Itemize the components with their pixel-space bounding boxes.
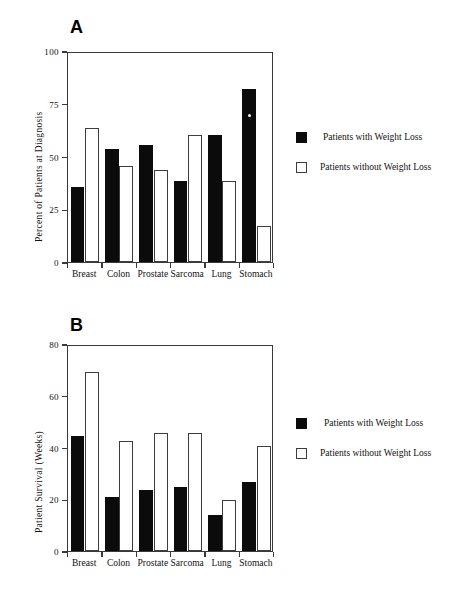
y-tick-mark [62,396,67,397]
x-tick-label: Lung [211,558,231,569]
x-tick-mark [204,552,205,557]
y-tick-label: 40 [49,444,59,454]
bar [154,433,168,551]
panel-b-plot-area [67,345,273,552]
panel-b-legend: Patients with Weight Loss Patients witho… [296,417,431,477]
legend-swatch-hollow-icon [296,448,307,459]
x-tick-mark [67,263,68,268]
bar [188,135,202,262]
y-tick-mark [62,104,67,105]
bar-group [137,346,171,551]
panel-b-letter: B [70,316,83,334]
y-tick-mark [62,157,67,158]
bar-group [68,346,102,551]
y-tick-mark [62,51,67,52]
bar-group [205,53,239,262]
x-tick-mark [170,263,171,268]
x-tick-label: Breast [72,558,96,569]
panel-a-legend: Patients with Weight Loss Patients witho… [296,131,431,191]
x-tick-label: Sarcoma [171,269,204,280]
legend-label: Patients with Weight Loss [323,132,422,143]
bar [119,441,133,551]
bar [105,497,119,551]
y-tick-mark [62,448,67,449]
x-tick-label: Colon [107,269,130,280]
bar [242,89,256,262]
legend-swatch-filled-icon [296,418,307,429]
bar [242,482,256,551]
legend-item-without-weight-loss: Patients without Weight Loss [296,447,431,459]
x-tick-label: Prostate [138,558,169,569]
x-tick-mark [273,263,274,268]
x-tick-mark [67,552,68,557]
x-tick-mark [170,552,171,557]
panel-a-y-axis-label: Percent of Patients at Diagnosis [34,112,44,242]
figure-root: A Percent of Patients at Diagnosis Patie… [0,0,455,596]
bar [85,372,99,551]
y-tick-label: 75 [49,100,59,110]
x-tick-mark [239,552,240,557]
bar [208,515,222,551]
legend-label: Patients with Weight Loss [324,418,423,429]
legend-item-with-weight-loss: Patients with Weight Loss [296,131,431,143]
bar [85,128,99,262]
panel-a-plot-area [67,52,273,263]
bar [154,170,168,262]
x-tick-label: Lung [211,269,231,280]
x-tick-label: Colon [107,558,130,569]
y-tick-label: 100 [44,47,59,57]
panel-b: B Patient Survival (Weeks) Patients with… [0,298,455,596]
x-tick-mark [101,263,102,268]
y-tick-label: 50 [49,153,59,163]
panel-a-bars [68,53,272,262]
bar [139,145,153,262]
bar [105,149,119,262]
y-tick-mark [62,500,67,501]
bar [257,226,271,262]
panel-b-y-axis-label: Patient Survival (Weeks) [34,431,44,533]
bar [222,500,236,551]
bar [188,433,202,551]
bar [257,446,271,551]
y-tick-label: 20 [49,495,59,505]
panel-b-bars [68,346,272,551]
bar-group [171,346,205,551]
x-tick-mark [239,263,240,268]
panel-a: A Percent of Patients at Diagnosis Patie… [0,0,455,298]
x-tick-mark [136,263,137,268]
x-tick-mark [101,552,102,557]
y-tick-label: 0 [54,547,59,557]
x-tick-label: Stomach [239,269,272,280]
legend-swatch-filled-icon [296,132,307,143]
bar [71,187,85,262]
x-tick-label: Sarcoma [171,558,204,569]
bar [208,135,222,262]
bar [174,181,188,263]
y-tick-mark [62,344,67,345]
x-tick-label: Prostate [138,269,169,280]
legend-label: Patients without Weight Loss [320,448,431,459]
x-tick-label: Stomach [239,558,272,569]
bar-group [240,53,274,262]
bar [222,181,236,263]
legend-item-without-weight-loss: Patients without Weight Loss [296,161,431,173]
bar-group [171,53,205,262]
bar [71,436,85,551]
y-tick-label: 60 [49,392,59,402]
bar-group [240,346,274,551]
bar-group [68,53,102,262]
x-tick-mark [136,552,137,557]
x-tick-mark [204,263,205,268]
panel-a-letter: A [70,18,83,36]
y-tick-mark [62,210,67,211]
bar-group [137,53,171,262]
bar [139,490,153,552]
legend-label: Patients without Weight Loss [320,162,431,173]
x-tick-mark [273,552,274,557]
bar-group [205,346,239,551]
y-tick-label: 80 [49,340,59,350]
print-speck [248,114,251,117]
bar-group [102,53,136,262]
y-tick-label: 0 [54,258,59,268]
y-tick-label: 25 [49,205,59,215]
